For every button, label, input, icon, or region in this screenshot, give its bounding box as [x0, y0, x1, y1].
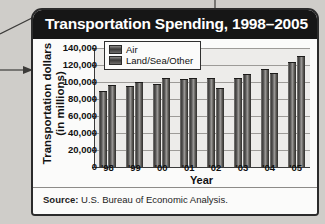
x-axis-label: Year: [94, 174, 309, 186]
bar-group: [261, 48, 279, 167]
bar-land-sea-other: [135, 82, 143, 167]
y-axis-tick-label: 0: [39, 161, 97, 172]
bar-land-sea-other: [189, 78, 197, 167]
y-axis-tick-label: 20,000: [39, 144, 97, 155]
chart-title: Transportation Spending, 1998–2005: [45, 15, 308, 33]
legend-swatch-icon: [109, 56, 122, 65]
x-axis-tick-label: '02: [202, 162, 228, 173]
bar-group: [207, 48, 225, 167]
bar-air: [126, 86, 134, 167]
bar-land-sea-other: [297, 56, 305, 168]
legend-item: Land/Sea/Other: [109, 55, 193, 66]
y-axis-tick-label: 140,000: [39, 42, 97, 53]
bar-land-sea-other: [108, 85, 116, 167]
bar-air: [288, 62, 296, 167]
legend-item: Air: [109, 44, 193, 55]
x-axis-tick-label: '00: [148, 162, 174, 173]
bar-land-sea-other: [216, 88, 224, 167]
bar-air: [99, 91, 107, 167]
bar-group: [234, 48, 252, 167]
bar-land-sea-other: [243, 74, 251, 167]
y-axis-tick-label: 60,000: [39, 110, 97, 121]
bar-land-sea-other: [270, 73, 278, 168]
source-label: Source:: [43, 194, 78, 205]
chart-title-bar: Transportation Spending, 1998–2005: [33, 10, 317, 39]
x-axis-tick-label: '99: [121, 162, 147, 173]
bar-air: [261, 69, 269, 167]
chart-legend: Air Land/Sea/Other: [104, 41, 201, 70]
bar-group: [288, 48, 306, 167]
legend-swatch-icon: [109, 45, 122, 54]
x-axis-tick-label: '01: [175, 162, 201, 173]
bar-air: [153, 84, 161, 167]
chart-card: Transportation Spending, 1998–2005 Trans…: [31, 8, 319, 216]
source-value: U.S. Bureau of Economic Analysis.: [81, 194, 228, 205]
chart-panel: Transportation dollars (in millions) Air…: [33, 39, 317, 191]
x-axis-tick-label: '05: [283, 162, 309, 173]
x-axis-tick-label: '03: [229, 162, 255, 173]
bar-land-sea-other: [162, 78, 170, 167]
y-axis-tick-label: 120,000: [39, 59, 97, 70]
y-axis-tick-label: 40,000: [39, 127, 97, 138]
bar-air: [180, 79, 188, 167]
legend-label: Air: [126, 44, 138, 55]
y-axis-tick-label: 80,000: [39, 93, 97, 104]
y-axis-tick-label: 100,000: [39, 76, 97, 87]
legend-label: Land/Sea/Other: [126, 55, 193, 66]
x-axis-tick-label: '98: [94, 162, 120, 173]
figure-container: Transportation Spending, 1998–2005 Trans…: [0, 0, 325, 224]
bar-air: [234, 78, 242, 167]
bar-air: [207, 78, 215, 167]
x-axis-tick-label: '04: [256, 162, 282, 173]
source-footer: Source: U.S. Bureau of Economic Analysis…: [33, 187, 317, 214]
source-text: Source: U.S. Bureau of Economic Analysis…: [43, 194, 228, 205]
